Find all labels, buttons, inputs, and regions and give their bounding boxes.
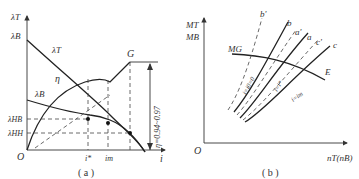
label-c-prime: c' bbox=[316, 37, 323, 47]
curve-a-prime bbox=[237, 30, 296, 115]
label-a: a bbox=[307, 32, 312, 42]
diagram-canvas: λT λB λHB λHH O i i* im λT η λB G η=0.94… bbox=[0, 0, 359, 179]
curve-label-mg: MG bbox=[227, 44, 242, 54]
figure-a: λT λB λHB λHH O i i* im λT η λB G η=0.94… bbox=[7, 12, 165, 179]
label-b: b bbox=[287, 18, 292, 28]
tick-i-star: i* bbox=[85, 154, 91, 163]
caption-a: ( a ) bbox=[78, 167, 94, 179]
curve-label-eta: η bbox=[55, 73, 60, 84]
label-lambda-b-axis: λB bbox=[10, 31, 21, 41]
y-axis-label-mt: MT bbox=[185, 20, 199, 30]
mg-curve bbox=[232, 54, 325, 80]
point-i-m bbox=[106, 121, 110, 125]
y-axis-label-a: λT bbox=[10, 12, 21, 22]
point-label-e: E bbox=[324, 67, 331, 77]
figure-b: MT MB O nT(nB) MG E b' b a' a c' c i=i0=… bbox=[185, 9, 353, 179]
point-hh bbox=[128, 131, 132, 135]
tick-i-m: im bbox=[105, 154, 113, 163]
label-b-prime: b' bbox=[260, 9, 268, 19]
y-axis-label-mb: MB bbox=[185, 32, 199, 42]
label-lambda-hh: λHH bbox=[7, 129, 24, 138]
caption-b: ( b ) bbox=[262, 167, 279, 179]
lambda-b-curve bbox=[27, 100, 145, 152]
inline-label-i-m: i=im bbox=[290, 90, 305, 103]
eta-range-annotation: η=0.94~0.97 bbox=[153, 105, 162, 148]
x-axis-label-a: i bbox=[160, 153, 163, 164]
point-label-g: G bbox=[127, 48, 134, 59]
eta-curve bbox=[27, 62, 130, 150]
label-lambda-hb: λHB bbox=[7, 115, 22, 124]
curve-label-lambda-t: λT bbox=[51, 45, 62, 55]
arrow-up-icon bbox=[147, 63, 153, 70]
label-c: c bbox=[333, 40, 337, 50]
origin-a: O bbox=[17, 151, 24, 162]
x-axis-label-b: nT(nB) bbox=[327, 153, 353, 163]
curve-label-lambda-b: λB bbox=[34, 89, 45, 99]
diag-dash bbox=[35, 95, 110, 148]
label-a-prime: a' bbox=[295, 27, 303, 37]
origin-b: O bbox=[194, 145, 201, 156]
point-i-star bbox=[86, 117, 90, 121]
